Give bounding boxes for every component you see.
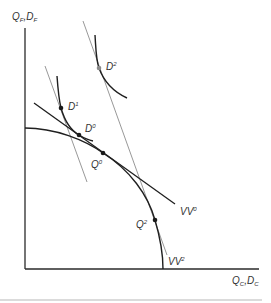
label-d2: D2: [106, 61, 117, 72]
x-axis-label: QC,DC: [232, 275, 259, 287]
price-line-d1: [45, 66, 87, 182]
production-possibility-frontier: [25, 128, 163, 269]
label-d0: D0: [85, 123, 96, 134]
point-q0: [101, 151, 106, 156]
point-d1: [59, 106, 64, 111]
point-d0: [77, 133, 82, 138]
label-vv2: VV2: [168, 256, 185, 267]
label-q2: Q2: [136, 219, 148, 230]
label-d1: D1: [68, 101, 79, 112]
point-d2: [97, 66, 102, 71]
ppf-diagram: QF,DF QC,DC D1 D0 Q0 Q2 D2 VV0 VV2: [0, 0, 271, 303]
label-q0: Q0: [91, 159, 103, 170]
label-vv0: VV0: [180, 206, 197, 217]
y-axis-label: QF,DF: [12, 11, 37, 23]
point-q2: [153, 218, 158, 223]
